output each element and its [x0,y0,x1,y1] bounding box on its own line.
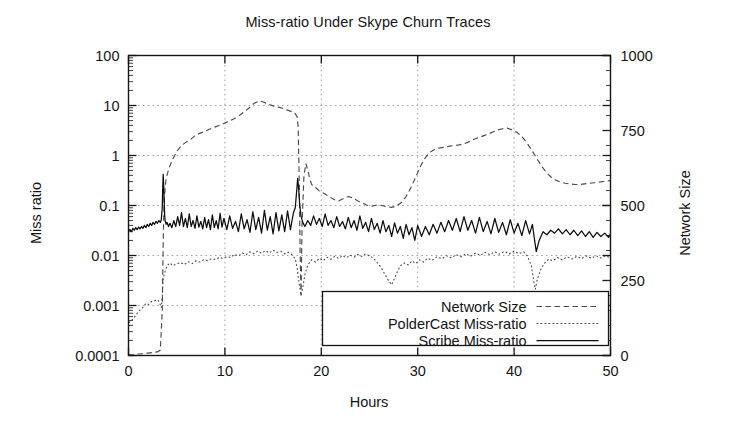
chart-figure: Miss-ratio Under Skype Churn Traces Miss… [0,0,736,423]
legend-label-0: Network Size [441,299,526,315]
y-tick-label-right: 250 [621,273,645,289]
y-tick-label-left: 0.0001 [75,348,119,364]
y-tick-label-left: 0.001 [83,298,119,314]
y-tick-label-left: 0.01 [91,248,119,264]
y-tick-label-left: 0.1 [99,198,119,214]
y-tick-label-left: 1 [111,148,119,164]
x-tick-label: 30 [410,363,426,379]
x-tick-label: 0 [124,363,132,379]
x-tick-label: 50 [602,363,618,379]
y-tick-label-left: 100 [95,48,119,64]
series-line-scribe-miss-ratio [129,174,611,251]
chart-legend[interactable]: Network SizePolderCast Miss-ratioScribe … [323,292,609,349]
legend-label-1: PolderCast Miss-ratio [388,316,527,332]
y-tick-label-right: 1000 [621,48,653,64]
y-tick-label-right: 0 [621,348,629,364]
y-tick-label-right: 500 [621,198,645,214]
legend-label-2: Scribe Miss-ratio [419,333,527,349]
y-tick-label-right: 750 [621,123,645,139]
x-tick-label: 40 [506,363,522,379]
x-tick-label: 20 [313,363,329,379]
y-tick-label-left: 10 [103,98,119,114]
plot-canvas: 0.00010.0010.010.11101000250500750100001… [0,0,736,423]
x-tick-label: 10 [217,363,233,379]
